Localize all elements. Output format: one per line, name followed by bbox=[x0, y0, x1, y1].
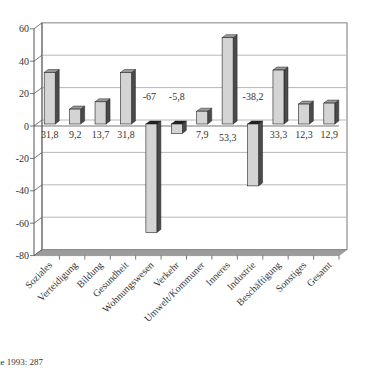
bar-gesundheit bbox=[120, 69, 135, 124]
bar-inneres bbox=[222, 35, 237, 124]
svg-text:31,8: 31,8 bbox=[117, 129, 135, 140]
source-footnote: ue 1993: 287 bbox=[0, 357, 43, 367]
bar-sonstiges bbox=[298, 101, 313, 124]
bar-besch-ftigung bbox=[273, 67, 288, 124]
bar-verteidigung bbox=[70, 106, 85, 124]
x-axis: SozialesVerteidigungBildungGesundheitWoh… bbox=[23, 256, 339, 324]
svg-text:-60: -60 bbox=[16, 218, 29, 229]
svg-text:-5,8: -5,8 bbox=[169, 91, 185, 102]
svg-text:-80: -80 bbox=[16, 250, 29, 261]
svg-text:0: 0 bbox=[24, 121, 29, 132]
bar-soziales bbox=[44, 69, 59, 124]
svg-text:-38,2: -38,2 bbox=[243, 91, 264, 102]
svg-text:20: 20 bbox=[19, 88, 29, 99]
chart-floor bbox=[34, 250, 347, 256]
bar-chart: 6040200-20-40-60-80 31,89,213,731,8-67-5… bbox=[0, 0, 366, 368]
svg-text:-40: -40 bbox=[16, 185, 29, 196]
svg-text:9,2: 9,2 bbox=[69, 129, 82, 140]
svg-text:40: 40 bbox=[19, 56, 29, 67]
svg-text:7,9: 7,9 bbox=[196, 129, 209, 140]
svg-text:60: 60 bbox=[19, 23, 29, 34]
svg-text:53,3: 53,3 bbox=[219, 132, 237, 143]
bar-industrie bbox=[248, 121, 263, 186]
bar-wohnungswesen bbox=[146, 121, 161, 233]
bar-bildung bbox=[95, 99, 110, 124]
bar-umwelt-kommuner bbox=[197, 108, 212, 124]
svg-text:-67: -67 bbox=[143, 91, 156, 102]
svg-text:12,9: 12,9 bbox=[321, 129, 339, 140]
svg-text:-20: -20 bbox=[16, 153, 29, 164]
svg-text:12,3: 12,3 bbox=[295, 129, 313, 140]
svg-text:13,7: 13,7 bbox=[92, 129, 110, 140]
svg-text:33,3: 33,3 bbox=[270, 129, 288, 140]
bar-verkehr bbox=[171, 121, 186, 133]
svg-text:Gesamt: Gesamt bbox=[304, 259, 334, 289]
bar-gesamt bbox=[324, 100, 339, 124]
svg-text:31,8: 31,8 bbox=[41, 129, 59, 140]
